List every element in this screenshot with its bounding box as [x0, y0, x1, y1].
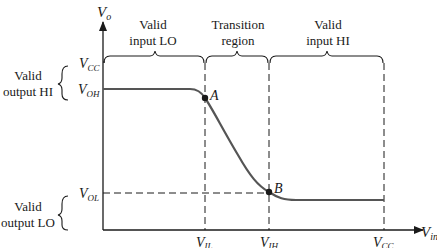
transfer-characteristic-diagram: Vo Vin Valid input LO Transition region …: [0, 0, 437, 248]
point-b-marker: [266, 189, 272, 195]
transfer-curve: [103, 89, 384, 200]
brace-output-hi: [58, 66, 68, 100]
brace-input-hi: [270, 51, 383, 63]
y-axis-label: Vo: [97, 4, 111, 22]
point-a-label: A: [209, 88, 219, 103]
output-hi-label-2: output HI: [3, 84, 53, 99]
region-input-hi-label-2: input HI: [306, 33, 350, 48]
x-vcc-label: VCC: [373, 235, 395, 248]
x-vil-label: VIL: [196, 235, 213, 248]
x-axis-label: Vin: [421, 224, 437, 242]
output-lo-label: Valid: [14, 199, 42, 214]
y-vol-label: VOL: [79, 186, 99, 203]
region-input-hi-label: Valid: [314, 17, 342, 32]
brace-transition: [206, 51, 268, 63]
point-a-marker: [202, 95, 208, 101]
output-hi-label: Valid: [14, 68, 42, 83]
region-transition-label-2: region: [221, 33, 255, 48]
brace-input-lo: [104, 51, 204, 63]
output-lo-label-2: output LO: [1, 215, 55, 230]
y-voh-label: VOH: [78, 82, 100, 99]
region-input-lo-label: Valid: [139, 17, 167, 32]
brace-output-lo: [58, 196, 68, 230]
x-vih-label: VIH: [260, 235, 279, 248]
y-vcc-label: VCC: [79, 56, 101, 73]
point-b-label: B: [274, 181, 283, 196]
region-input-lo-label-2: input LO: [129, 33, 176, 48]
region-transition-label: Transition: [212, 17, 265, 32]
